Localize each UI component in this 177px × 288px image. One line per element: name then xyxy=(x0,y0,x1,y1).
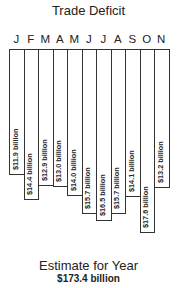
month-label: M xyxy=(38,33,53,45)
bar-value-label: $14.0 billion xyxy=(69,149,78,191)
bar-value-label: $13.2 billion xyxy=(156,141,165,183)
month-label: F xyxy=(24,33,39,45)
estimate-value: $173.4 billion xyxy=(0,273,177,284)
month-label: J xyxy=(96,33,111,45)
month-axis: JFMAMJJASON xyxy=(9,33,169,47)
bar: $12.9 billion xyxy=(38,49,54,186)
bar: $11.9 billion xyxy=(9,49,25,175)
bar-value-label: $15.7 billion xyxy=(112,167,121,209)
bar: $17.6 billion xyxy=(140,49,156,233)
bar: $15.7 billion xyxy=(82,49,98,214)
bar: $14.4 billion xyxy=(24,49,40,200)
bar: $16.5 billion xyxy=(96,49,112,221)
bar: $15.7 billion xyxy=(111,49,127,214)
month-label: A xyxy=(53,33,68,45)
month-label: J xyxy=(82,33,97,45)
bars-area: $11.9 billion$14.4 billion$12.9 billion$… xyxy=(9,49,169,249)
bar: $14.1 billion xyxy=(125,49,141,197)
bar-value-label: $14.1 billion xyxy=(127,150,136,192)
bar: $13.2 billion xyxy=(154,49,170,188)
bar-value-label: $15.7 billion xyxy=(83,167,92,209)
month-label: J xyxy=(9,33,24,45)
estimate-label: Estimate for Year xyxy=(0,258,177,273)
bar-value-label: $13.0 billion xyxy=(54,140,63,182)
bar-value-label: $17.6 billion xyxy=(141,186,150,228)
chart-title: Trade Deficit xyxy=(0,3,177,18)
bar: $14.0 billion xyxy=(67,49,83,196)
bar-value-label: $14.4 billion xyxy=(25,153,34,195)
month-label: M xyxy=(67,33,82,45)
bar-value-label: $16.5 billion xyxy=(98,174,107,216)
bar: $13.0 billion xyxy=(53,49,69,187)
month-label: N xyxy=(154,33,169,45)
bar-value-label: $11.9 billion xyxy=(11,129,20,170)
month-label: S xyxy=(125,33,140,45)
month-label: O xyxy=(140,33,155,45)
bar-value-label: $12.9 billion xyxy=(40,139,49,181)
month-label: A xyxy=(111,33,126,45)
